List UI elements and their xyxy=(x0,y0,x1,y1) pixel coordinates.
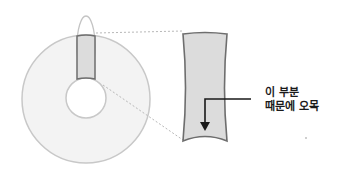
inner-hole-circle xyxy=(66,78,106,118)
stray-dot xyxy=(305,137,307,139)
annotation-line-2: 때문에 오목 xyxy=(265,100,319,113)
annotation-line-1: 이 부분 xyxy=(265,86,299,99)
highlighted-section xyxy=(77,35,95,79)
connector-line-top xyxy=(96,31,183,33)
